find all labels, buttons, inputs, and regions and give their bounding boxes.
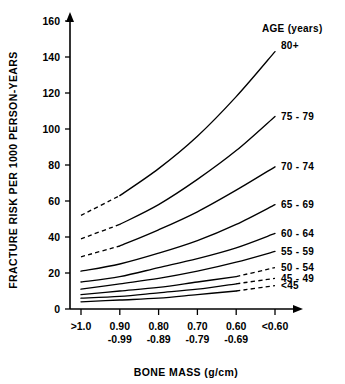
series-line (81, 251, 275, 289)
x-tick-label-secondary: -0.79 (185, 333, 209, 345)
series-label-75-79: 75 - 79 (281, 111, 314, 122)
y-tick-label: 60 (48, 195, 60, 207)
x-axis-title: BONE MASS (g/cm) (134, 366, 238, 378)
x-axis-ticks (81, 309, 275, 315)
x-tick-label-secondary: -0.89 (147, 333, 171, 345)
series-line (120, 116, 275, 224)
x-tick-label: 0.70 (187, 320, 208, 332)
x-tick-label-secondary: -0.99 (108, 333, 132, 345)
series-label-80: 80+ (281, 40, 299, 51)
series-dashed-segment (236, 286, 275, 291)
y-tick-label: 160 (42, 15, 60, 27)
series-dashed-segment (81, 196, 120, 216)
x-tick-label: <0.60 (262, 320, 289, 332)
x-tick-label: 0.90 (110, 320, 131, 332)
series-dashed-segment (236, 268, 275, 277)
y-tick-label: 0 (54, 303, 60, 315)
y-tick-label: 20 (48, 267, 60, 279)
y-axis-title: FRACTURE RISK PER 1000 PERSON-YEARS (7, 51, 19, 288)
y-axis-tick-labels: 020406080100120140160 (42, 15, 60, 315)
x-axis-arrow-icon (293, 305, 303, 313)
y-tick-label: 80 (48, 159, 60, 171)
x-tick-label: >1.0 (71, 320, 92, 332)
y-tick-label: 100 (42, 123, 60, 135)
y-tick-label: 140 (42, 51, 60, 63)
legend-title: AGE (years) (262, 23, 323, 34)
series-dashed-segment (236, 278, 275, 283)
y-tick-label: 40 (48, 231, 60, 243)
x-tick-label: 0.80 (148, 320, 169, 332)
series-line (81, 205, 275, 272)
series-line (120, 52, 275, 196)
y-tick-label: 120 (42, 87, 60, 99)
series-labels: 80+75 - 7970 - 7465 - 6960 - 6455 - 5950… (281, 40, 314, 292)
data-series-curves (81, 52, 275, 302)
series-label-45: <45 (281, 280, 299, 291)
series-label-60-64: 60 - 64 (281, 228, 314, 239)
fracture-risk-line-chart: 020406080100120140160 >1.00.90-0.990.80-… (0, 0, 345, 384)
series-label-50-54: 50 - 54 (281, 262, 314, 273)
chart-container: 020406080100120140160 >1.00.90-0.990.80-… (0, 0, 345, 384)
x-tick-label: 0.60 (226, 320, 247, 332)
series-dashed-segment (81, 224, 120, 238)
x-axis-tick-labels: >1.00.90-0.990.80-0.890.70-0.790.60-0.69… (71, 320, 289, 345)
x-tick-label-secondary: -0.69 (224, 333, 248, 345)
series-dashed-segment (81, 246, 120, 257)
series-label-55-59: 55 - 59 (281, 246, 314, 257)
series-label-70-74: 70 - 74 (281, 161, 314, 172)
series-label-65-69: 65 - 69 (281, 199, 314, 210)
